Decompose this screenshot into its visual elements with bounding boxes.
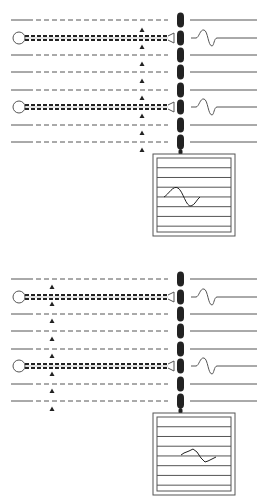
arrow-up-icon	[50, 389, 55, 394]
node-segment-icon	[177, 100, 184, 115]
arrow-up-icon	[50, 337, 55, 342]
arrow-up-icon	[50, 372, 55, 377]
node-segment-icon	[177, 324, 184, 339]
arrow-up-icon	[50, 354, 55, 359]
node-segment-icon	[177, 307, 184, 322]
node-segment-icon	[177, 118, 184, 133]
electrode-bulb-icon	[13, 101, 25, 113]
node-segment-icon	[177, 48, 184, 63]
panel-bottom	[11, 272, 257, 496]
arrow-up-icon	[140, 45, 145, 50]
electrode-tip-icon	[168, 361, 174, 371]
panel-top	[11, 13, 257, 237]
monitor-frame	[153, 413, 235, 495]
arrow-up-icon	[140, 62, 145, 67]
electrode-bulb-icon	[13, 32, 25, 44]
arrow-up-icon	[140, 114, 145, 119]
node-segment-icon	[177, 290, 184, 305]
node-segment-icon	[177, 272, 184, 287]
diagram-canvas	[0, 0, 268, 497]
arrow-up-icon	[140, 148, 145, 153]
electrode-bulb-icon	[13, 360, 25, 372]
node-segment-icon	[177, 65, 184, 80]
electrode-tip-icon	[168, 292, 174, 302]
arrow-up-icon	[140, 28, 145, 33]
electrode-tip-icon	[168, 33, 174, 43]
node-segment-icon	[177, 359, 184, 374]
node-segment-icon	[177, 377, 184, 392]
node-segment-icon	[177, 31, 184, 46]
arrow-up-icon	[140, 131, 145, 136]
node-segment-icon	[177, 13, 184, 28]
arrow-up-icon	[50, 302, 55, 307]
arrow-up-icon	[50, 319, 55, 324]
monitor-frame	[153, 154, 235, 236]
response-wave	[191, 30, 257, 46]
electrode-tip-icon	[168, 102, 174, 112]
arrow-up-icon	[140, 79, 145, 84]
response-wave	[191, 358, 257, 374]
electrode-bulb-icon	[13, 291, 25, 303]
node-segment-icon	[177, 342, 184, 357]
response-wave	[191, 289, 257, 305]
arrow-up-icon	[50, 285, 55, 290]
arrow-up-icon	[140, 96, 145, 101]
node-segment-icon	[177, 135, 184, 150]
response-wave	[191, 99, 257, 115]
node-segment-icon	[177, 83, 184, 98]
arrow-up-icon	[50, 407, 55, 412]
node-segment-icon	[177, 394, 184, 409]
